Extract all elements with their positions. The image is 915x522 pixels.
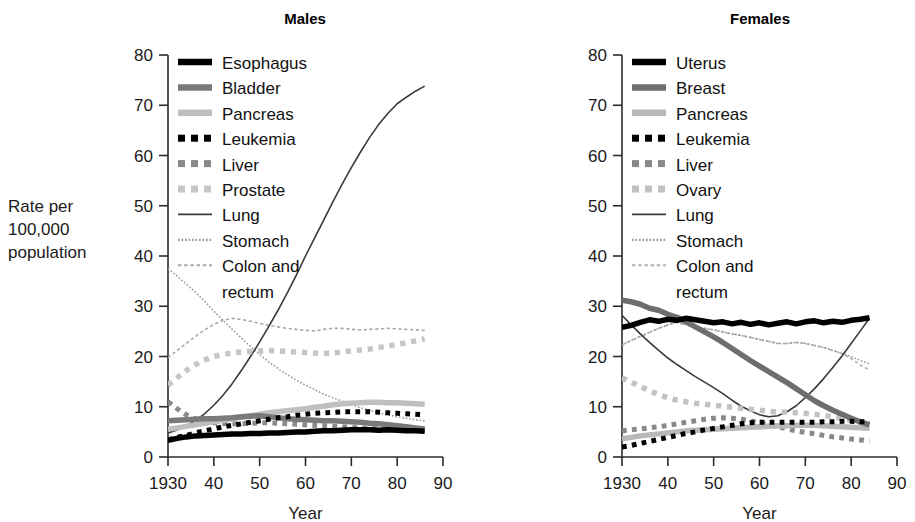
x-tick-label: 60 — [750, 474, 769, 493]
swatch-square — [658, 160, 665, 167]
legend-swatch-prostate — [178, 186, 211, 193]
x-tick-label: 1930 — [603, 474, 641, 493]
swatch-square — [204, 186, 211, 193]
y-tick-label: 30 — [588, 297, 607, 316]
x-tick-label: 40 — [204, 474, 223, 493]
y-tick-label: 20 — [134, 348, 153, 367]
swatch-square — [178, 160, 185, 167]
legend-label: Bladder — [222, 79, 281, 98]
legend-label: Colon and — [222, 257, 300, 276]
legend-label: Prostate — [222, 181, 285, 200]
swatch-square — [645, 135, 652, 142]
swatch-square — [658, 186, 665, 193]
y-tick-label: 0 — [598, 448, 607, 467]
swatch-square — [204, 160, 211, 167]
swatch-square — [645, 186, 652, 193]
legend-label: Liver — [676, 156, 713, 175]
y-axis-label-line: population — [8, 243, 86, 262]
swatch-square — [632, 160, 639, 167]
swatch-square — [645, 160, 652, 167]
cancer-death-rates-figure: Rate per100,000population Males010203040… — [0, 0, 915, 522]
swatch-square — [191, 160, 198, 167]
y-tick-label: 80 — [134, 46, 153, 65]
legend-label: Breast — [676, 79, 725, 98]
legend-label: Leukemia — [222, 130, 296, 149]
y-axis-label-line: Rate per — [8, 197, 74, 216]
legend-label: Colon and — [676, 257, 754, 276]
legend-label: Liver — [222, 156, 259, 175]
x-axis-title: Year — [288, 504, 323, 522]
legend-label: Stomach — [222, 232, 289, 251]
legend-label-continued: rectum — [222, 283, 274, 302]
swatch-square — [178, 135, 185, 142]
y-tick-label: 70 — [134, 96, 153, 115]
x-tick-label: 70 — [342, 474, 361, 493]
legend-swatch-liver — [632, 160, 665, 167]
swatch-square — [658, 135, 665, 142]
y-tick-label: 60 — [134, 147, 153, 166]
legend-label: Pancreas — [676, 105, 748, 124]
x-axis-title: Year — [742, 504, 777, 522]
x-tick-label: 90 — [888, 474, 907, 493]
legend-label: Lung — [676, 206, 714, 225]
y-axis-label-line: 100,000 — [8, 220, 69, 239]
y-tick-label: 50 — [588, 197, 607, 216]
x-tick-label: 80 — [842, 474, 861, 493]
legend-swatch-liver — [178, 160, 211, 167]
x-tick-label: 60 — [296, 474, 315, 493]
legend-label-continued: rectum — [676, 283, 728, 302]
y-tick-label: 60 — [588, 147, 607, 166]
y-tick-label: 40 — [134, 247, 153, 266]
y-tick-label: 30 — [134, 297, 153, 316]
y-tick-label: 50 — [134, 197, 153, 216]
x-tick-label: 1930 — [149, 474, 187, 493]
y-tick-label: 10 — [134, 398, 153, 417]
legend-swatch-ovary — [632, 186, 665, 193]
legend-label: Leukemia — [676, 130, 750, 149]
x-tick-label: 50 — [250, 474, 269, 493]
panel-title-males: Males — [284, 10, 326, 27]
legend-label: Lung — [222, 206, 260, 225]
x-tick-label: 40 — [658, 474, 677, 493]
legend-label: Ovary — [676, 181, 722, 200]
legend-swatch-leukemia — [632, 135, 665, 142]
legend-label: Uterus — [676, 54, 726, 73]
x-tick-label: 90 — [434, 474, 453, 493]
swatch-square — [632, 186, 639, 193]
swatch-square — [191, 135, 198, 142]
legend-label: Esophagus — [222, 54, 307, 73]
y-tick-label: 40 — [588, 247, 607, 266]
y-tick-label: 20 — [588, 348, 607, 367]
y-tick-label: 0 — [144, 448, 153, 467]
swatch-square — [204, 135, 211, 142]
y-tick-label: 80 — [588, 46, 607, 65]
x-tick-label: 70 — [796, 474, 815, 493]
y-tick-label: 10 — [588, 398, 607, 417]
legend-swatch-leukemia — [178, 135, 211, 142]
x-tick-label: 50 — [704, 474, 723, 493]
swatch-square — [632, 135, 639, 142]
panel-title-females: Females — [730, 10, 790, 27]
legend-label: Pancreas — [222, 105, 294, 124]
legend-label: Stomach — [676, 232, 743, 251]
swatch-square — [178, 186, 185, 193]
x-tick-label: 80 — [388, 474, 407, 493]
y-tick-label: 70 — [588, 96, 607, 115]
swatch-square — [191, 186, 198, 193]
